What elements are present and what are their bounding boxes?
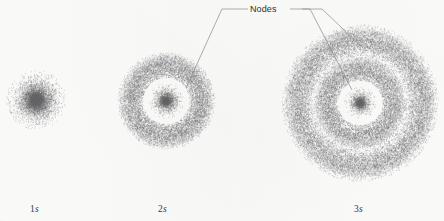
nodes-leader-line-layer <box>0 0 444 221</box>
leader-to-3s-inner-node <box>302 9 363 48</box>
orbital-caption-1s-subshell: s <box>35 204 39 214</box>
orbital-caption-3s: 3s <box>354 205 363 215</box>
leader-to-3s-outer-node <box>290 9 352 90</box>
orbital-density-figure: Nodes 1s 2s 3s <box>0 0 444 221</box>
orbital-caption-3s-subshell: s <box>359 204 363 214</box>
orbital-caption-1s: 1s <box>30 205 39 215</box>
orbital-caption-2s: 2s <box>158 205 167 215</box>
leader-to-2s-node <box>186 9 248 88</box>
orbital-caption-2s-subshell: s <box>163 204 167 214</box>
nodes-annotation-label: Nodes <box>250 5 277 14</box>
nodes-annotation-text: Nodes <box>250 4 277 14</box>
